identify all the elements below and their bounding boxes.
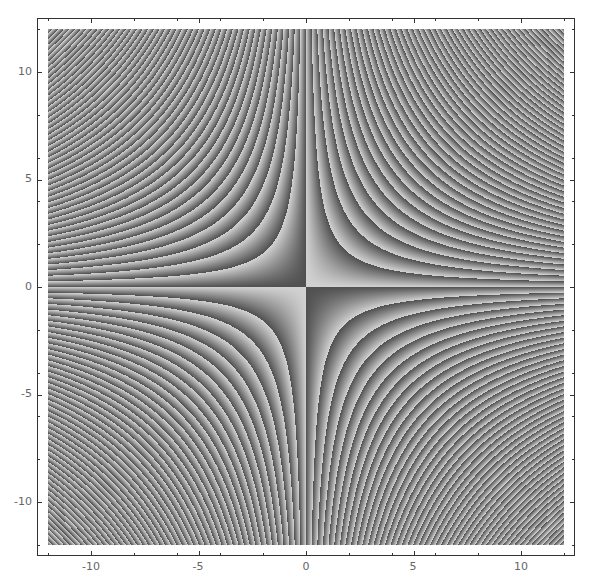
y-tick-label: -5 (2, 388, 32, 400)
tick-mark (572, 158, 575, 159)
tick-mark (572, 115, 575, 116)
tick-mark (570, 395, 575, 396)
x-tick-label: -10 (82, 561, 100, 573)
tick-mark (37, 244, 40, 245)
y-tick-label: 0 (2, 281, 32, 293)
tick-mark (37, 502, 42, 503)
tick-mark (199, 551, 200, 556)
y-tick-label: 10 (2, 66, 32, 78)
tick-mark (37, 287, 42, 288)
tick-mark (37, 158, 40, 159)
tick-mark (570, 72, 575, 73)
tick-mark (37, 395, 42, 396)
y-tick-label: -10 (2, 496, 32, 508)
tick-mark (564, 18, 565, 21)
tick-mark (521, 551, 522, 556)
tick-mark (572, 201, 575, 202)
tick-mark (37, 459, 40, 460)
tick-mark (478, 553, 479, 556)
tick-mark (392, 553, 393, 556)
tick-mark (37, 545, 40, 546)
x-tick-label: 0 (303, 561, 310, 573)
x-tick-label: 5 (410, 561, 417, 573)
tick-mark (572, 373, 575, 374)
tick-mark (37, 72, 42, 73)
density-plot (48, 29, 564, 545)
tick-mark (48, 553, 49, 556)
tick-mark (572, 244, 575, 245)
tick-mark (572, 545, 575, 546)
tick-mark (91, 18, 92, 23)
x-tick-label: -5 (193, 561, 204, 573)
y-tick-label: 5 (2, 173, 32, 185)
tick-mark (263, 18, 264, 21)
tick-mark (572, 416, 575, 417)
tick-mark (414, 18, 415, 23)
tick-mark (220, 553, 221, 556)
tick-mark (220, 18, 221, 21)
tick-mark (570, 502, 575, 503)
tick-mark (435, 18, 436, 21)
tick-mark (521, 18, 522, 23)
tick-mark (572, 459, 575, 460)
tick-mark (134, 18, 135, 21)
tick-mark (199, 18, 200, 23)
tick-mark (570, 180, 575, 181)
tick-mark (177, 18, 178, 21)
tick-mark (177, 553, 178, 556)
tick-mark (37, 330, 40, 331)
tick-mark (37, 373, 40, 374)
tick-mark (570, 287, 575, 288)
tick-mark (263, 553, 264, 556)
tick-mark (134, 553, 135, 556)
tick-mark (37, 416, 40, 417)
tick-mark (349, 18, 350, 21)
tick-mark (392, 18, 393, 21)
tick-mark (91, 551, 92, 556)
tick-mark (37, 115, 40, 116)
tick-mark (572, 29, 575, 30)
x-tick-label: 10 (514, 561, 528, 573)
tick-mark (478, 18, 479, 21)
tick-mark (37, 201, 40, 202)
tick-mark (349, 553, 350, 556)
tick-mark (48, 18, 49, 21)
tick-mark (572, 330, 575, 331)
tick-mark (435, 553, 436, 556)
tick-mark (306, 18, 307, 23)
tick-mark (306, 551, 307, 556)
tick-mark (564, 553, 565, 556)
tick-mark (37, 180, 42, 181)
tick-mark (37, 29, 40, 30)
tick-mark (414, 551, 415, 556)
